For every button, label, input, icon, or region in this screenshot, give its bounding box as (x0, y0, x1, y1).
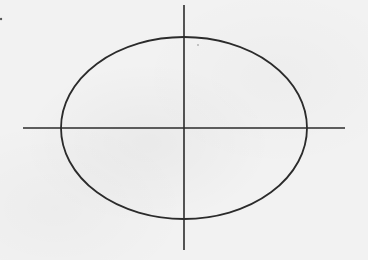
corner-mark (0, 18, 2, 20)
diagram-canvas (0, 0, 368, 260)
paper-speck (197, 44, 199, 46)
ellipse-diagram (0, 0, 368, 260)
